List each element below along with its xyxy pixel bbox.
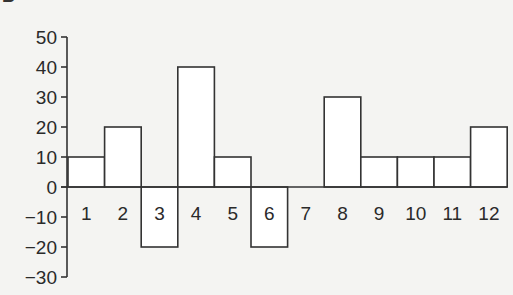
bar-1 bbox=[68, 157, 105, 187]
category-label: 3 bbox=[154, 203, 165, 224]
y-tick-label: 50 bbox=[36, 27, 57, 48]
y-tick-label: 0 bbox=[46, 177, 57, 198]
category-label: 6 bbox=[264, 203, 275, 224]
bar-10 bbox=[397, 157, 434, 187]
category-label: 9 bbox=[374, 203, 385, 224]
category-label: 11 bbox=[442, 203, 462, 224]
y-tick-label: 30 bbox=[36, 87, 57, 108]
category-label: 7 bbox=[301, 203, 312, 224]
bar-9 bbox=[361, 157, 398, 187]
y-tick-label: −30 bbox=[25, 267, 57, 288]
category-label: 4 bbox=[191, 203, 202, 224]
bar-8 bbox=[324, 97, 361, 187]
y-tick-label: 40 bbox=[36, 57, 57, 78]
category-label: 5 bbox=[227, 203, 238, 224]
bar-12 bbox=[471, 127, 508, 187]
y-tick-label: −20 bbox=[25, 237, 57, 258]
y-tick-label: 20 bbox=[36, 117, 57, 138]
y-tick-label: 10 bbox=[36, 147, 57, 168]
bar-2 bbox=[105, 127, 142, 187]
bar-4 bbox=[178, 67, 215, 187]
category-label: 10 bbox=[405, 203, 426, 224]
bar-5 bbox=[214, 157, 251, 187]
category-label: 2 bbox=[118, 203, 129, 224]
y-tick-label: −10 bbox=[25, 207, 57, 228]
category-label: 8 bbox=[337, 203, 348, 224]
y-axis: 50403020100−10−20−30 bbox=[25, 27, 67, 288]
category-label: 12 bbox=[478, 203, 499, 224]
category-label: 1 bbox=[81, 203, 92, 224]
bars bbox=[68, 67, 507, 247]
bar-11 bbox=[434, 157, 471, 187]
bar-chart: 50403020100−10−20−30 123456789101112 bbox=[0, 0, 513, 295]
